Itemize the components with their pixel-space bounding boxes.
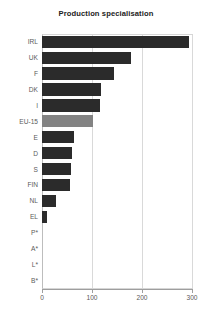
y-tick-label-eu-15: EU-15 — [0, 114, 38, 130]
bar-row — [42, 257, 193, 273]
bar-row — [42, 177, 193, 193]
y-tick-label-bstar: B* — [0, 273, 38, 289]
bar-nl — [42, 195, 56, 207]
x-tick-mark-0 — [42, 290, 43, 293]
x-tick-label-0: 0 — [27, 294, 57, 301]
production-specialisation-chart: Production specialisation IRLUKFDKIEU-15… — [0, 0, 212, 313]
bar-row — [42, 146, 193, 162]
bar-s — [42, 163, 71, 175]
y-tick-label-s: S — [0, 162, 38, 178]
bar-irl — [42, 36, 189, 48]
bar-e — [42, 131, 74, 143]
x-tick-label-100: 100 — [77, 294, 107, 301]
y-tick-label-e: E — [0, 130, 38, 146]
y-tick-label-irl: IRL — [0, 34, 38, 50]
x-tick-mark-100 — [92, 290, 93, 293]
bar-row — [42, 209, 193, 225]
y-tick-label-dk: DK — [0, 82, 38, 98]
y-tick-label-pstar: P* — [0, 225, 38, 241]
bar-row — [42, 273, 193, 289]
x-tick-label-300: 300 — [177, 294, 207, 301]
bar-row — [42, 82, 193, 98]
bar-row — [42, 114, 193, 130]
bar-el — [42, 211, 47, 223]
bar-row — [42, 50, 193, 66]
bar-eu-15 — [42, 115, 93, 127]
bar-fin — [42, 179, 70, 191]
chart-title: Production specialisation — [0, 9, 212, 19]
bar-i — [42, 99, 100, 111]
x-tick-mark-200 — [142, 290, 143, 293]
y-axis-labels: IRLUKFDKIEU-15EDSFINNLELP*A*L*B* — [0, 34, 38, 289]
bar-row — [42, 162, 193, 178]
bar-row — [42, 193, 193, 209]
y-tick-label-f: F — [0, 66, 38, 82]
bar-d — [42, 147, 72, 159]
y-tick-label-d: D — [0, 146, 38, 162]
x-tick-mark-300 — [192, 290, 193, 293]
bar-row — [42, 98, 193, 114]
bar-row — [42, 130, 193, 146]
bar-uk — [42, 52, 131, 64]
bar-row — [42, 225, 193, 241]
y-tick-label-astar: A* — [0, 241, 38, 257]
x-tick-label-200: 200 — [127, 294, 157, 301]
y-tick-label-fin: FIN — [0, 177, 38, 193]
bar-dk — [42, 83, 101, 95]
y-tick-label-uk: UK — [0, 50, 38, 66]
y-tick-label-nl: NL — [0, 193, 38, 209]
y-tick-label-lstar: L* — [0, 257, 38, 273]
y-tick-label-el: EL — [0, 209, 38, 225]
bar-series — [42, 34, 193, 289]
x-axis-line — [42, 289, 193, 290]
bar-f — [42, 67, 114, 79]
bar-row — [42, 241, 193, 257]
bar-row — [42, 66, 193, 82]
y-tick-label-i: I — [0, 98, 38, 114]
bar-row — [42, 34, 193, 50]
